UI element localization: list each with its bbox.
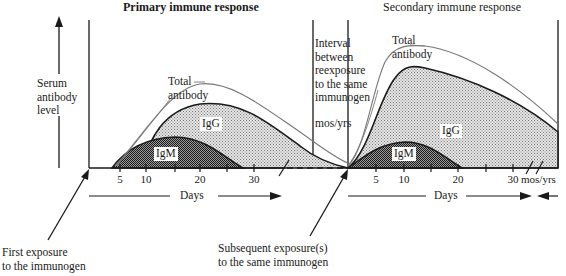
primary-tick-30: 30 (249, 173, 260, 185)
primary-tick-5: 5 (117, 173, 123, 185)
secondary-igg-label: IgG (440, 124, 462, 138)
primary-total-antibody-label: Total antibody (168, 75, 208, 102)
days-label-secondary: Days (434, 189, 458, 203)
first-exposure-annotation: First exposure to the immunogen (2, 246, 86, 273)
secondary-tick-5: 5 (373, 173, 379, 185)
days-label-primary: Days (180, 189, 204, 203)
secondary-tick-20: 20 (453, 173, 464, 185)
primary-tick-20: 20 (195, 173, 206, 185)
immune-response-diagram (0, 0, 566, 276)
secondary-tick-30: 30 (508, 173, 519, 185)
secondary-total-antibody-label: Total antibody (392, 34, 432, 61)
days-arrows (89, 192, 558, 200)
primary-tick-10: 10 (141, 173, 152, 185)
secondary-igm-label: IgM (392, 147, 416, 161)
y-axis-label: Serum antibody level (37, 77, 77, 118)
secondary-end-unit: mos/yrs (521, 173, 556, 187)
primary-igm-label: IgM (154, 147, 178, 161)
secondary-tick-10: 10 (399, 173, 410, 185)
secondary-title: Secondary immune response (383, 1, 521, 15)
primary-igg-label: IgG (200, 117, 222, 131)
interval-unit: mos/yrs (315, 117, 351, 131)
subsequent-exposure-annotation: Subsequent exposure(s) to the same immun… (218, 242, 328, 269)
primary-title: Primary immune response (123, 1, 259, 15)
interval-note: Interval between reexposure to the same … (315, 37, 370, 105)
